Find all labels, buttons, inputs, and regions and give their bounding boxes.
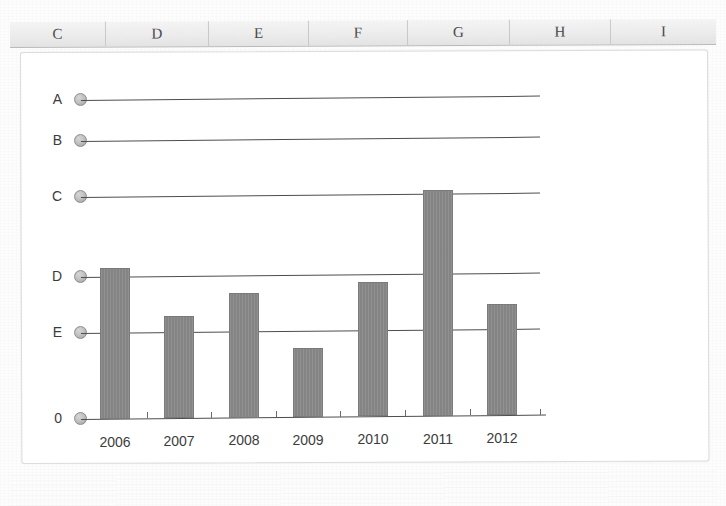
column-header-label: H (555, 24, 566, 41)
column-header-e[interactable]: E (209, 21, 309, 46)
column-header-label: G (453, 24, 464, 41)
screenshot-root: CDEFGHI ABCDE020062007200820092010201120… (0, 0, 726, 506)
spreadsheet-column-header[interactable]: CDEFGHI (10, 19, 716, 48)
column-header-c[interactable]: C (10, 22, 106, 47)
page-bottom-smudge (10, 468, 716, 506)
column-header-d[interactable]: D (106, 21, 209, 46)
column-header-f[interactable]: F (309, 20, 408, 45)
column-header-g[interactable]: G (408, 20, 510, 45)
column-header-h[interactable]: H (510, 19, 611, 44)
column-header-label: C (52, 26, 62, 43)
column-header-label: F (354, 24, 362, 41)
column-header-label: D (152, 25, 163, 42)
column-header-label: E (254, 25, 263, 42)
column-header-i[interactable]: I (611, 19, 716, 44)
column-header-label: I (661, 23, 666, 40)
chart-panel (20, 50, 709, 464)
